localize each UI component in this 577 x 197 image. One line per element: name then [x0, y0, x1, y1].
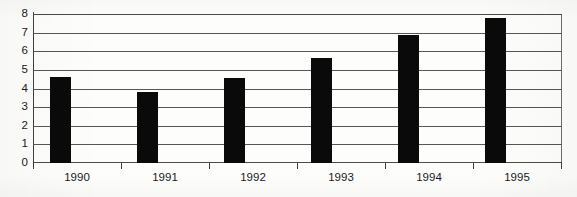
y-tick-label-6: 6 [4, 46, 28, 58]
x-tick-0 [33, 163, 34, 169]
plot-area [33, 14, 562, 163]
gridline-3 [33, 107, 562, 108]
x-label-1990: 1990 [42, 172, 112, 184]
gridline-7 [33, 33, 562, 34]
x-tick-6 [561, 163, 562, 169]
bar-1990 [50, 77, 71, 163]
y-tick-label-1: 1 [4, 139, 28, 151]
y-tick-label-8: 8 [4, 8, 28, 20]
bar-1991 [137, 92, 158, 163]
x-label-1995: 1995 [482, 172, 552, 184]
y-tick-label-3: 3 [4, 101, 28, 113]
x-tick-5 [473, 163, 474, 169]
bar-1993 [311, 58, 332, 163]
y-tick-label-2: 2 [4, 120, 28, 132]
gridline-8 [33, 14, 562, 15]
gridline-1 [33, 144, 562, 145]
bar-chart: 8 7 6 5 4 3 2 1 0 1990 1991 199 [0, 0, 577, 197]
bar-1994 [398, 35, 419, 163]
gridline-6 [33, 51, 562, 52]
x-tick-4 [385, 163, 386, 169]
x-label-1992: 1992 [218, 172, 288, 184]
x-tick-1 [121, 163, 122, 169]
x-tick-2 [209, 163, 210, 169]
x-label-1993: 1993 [306, 172, 376, 184]
gridline-5 [33, 70, 562, 71]
gridline-4 [33, 89, 562, 90]
y-tick-label-5: 5 [4, 64, 28, 76]
y-tick-label-7: 7 [4, 27, 28, 39]
x-label-1994: 1994 [394, 172, 464, 184]
x-label-1991: 1991 [130, 172, 200, 184]
bar-1992 [224, 78, 245, 163]
bar-1995 [485, 18, 506, 163]
y-axis-labels: 8 7 6 5 4 3 2 1 0 [0, 14, 28, 163]
x-tick-3 [297, 163, 298, 169]
y-tick-label-0: 0 [4, 157, 28, 169]
y-tick-label-4: 4 [4, 83, 28, 95]
gridline-2 [33, 126, 562, 127]
